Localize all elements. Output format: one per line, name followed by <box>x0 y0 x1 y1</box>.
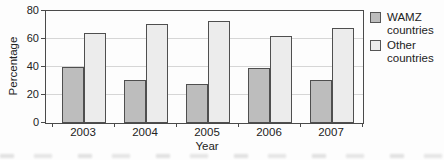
legend-label: WAMZ countries <box>387 11 444 37</box>
x-tick-mark <box>300 123 301 127</box>
bar-wamz-2007 <box>310 80 332 123</box>
bar-wamz-2004 <box>124 80 146 123</box>
legend-entry-wamz: WAMZ countries <box>370 11 444 37</box>
scan-artifact <box>0 154 444 158</box>
bar-wamz-2003 <box>62 67 84 123</box>
bar-other-2005 <box>208 21 230 123</box>
legend-entry-other: Other countries <box>370 39 444 65</box>
plot-area <box>45 10 364 124</box>
bar-other-2004 <box>146 24 168 123</box>
y-tick-mark <box>41 10 45 11</box>
y-tick-mark <box>41 66 45 67</box>
x-tick-label-2004: 2004 <box>123 126 167 138</box>
x-tick-label-2006: 2006 <box>247 126 291 138</box>
legend-swatch-other <box>370 40 381 51</box>
x-tick-mark <box>238 123 239 127</box>
y-tick-mark <box>41 94 45 95</box>
y-tick-label-40: 40 <box>8 61 39 72</box>
x-tick-label-2005: 2005 <box>185 126 229 138</box>
x-tick-label-2007: 2007 <box>309 126 353 138</box>
y-tick-mark <box>41 38 45 39</box>
legend: WAMZ countriesOther countries <box>370 11 444 67</box>
y-tick-label-0: 0 <box>8 117 39 128</box>
x-tick-mark <box>114 123 115 127</box>
y-tick-label-80: 80 <box>8 5 39 16</box>
x-axis-title: Year <box>195 140 218 152</box>
legend-label: Other countries <box>387 39 444 65</box>
bar-other-2007 <box>332 28 354 123</box>
x-tick-mark <box>176 123 177 127</box>
y-tick-label-20: 20 <box>8 89 39 100</box>
bar-chart-figure: Percentage 020406080 2003200420052006200… <box>0 0 444 160</box>
bar-other-2003 <box>84 33 106 123</box>
bar-wamz-2006 <box>248 68 270 123</box>
y-tick-mark <box>41 122 45 123</box>
bar-wamz-2005 <box>186 84 208 123</box>
legend-swatch-wamz <box>370 12 381 23</box>
x-tick-mark <box>362 123 363 127</box>
y-tick-label-60: 60 <box>8 33 39 44</box>
x-tick-label-2003: 2003 <box>61 126 105 138</box>
x-tick-mark <box>52 123 53 127</box>
bar-other-2006 <box>270 36 292 123</box>
